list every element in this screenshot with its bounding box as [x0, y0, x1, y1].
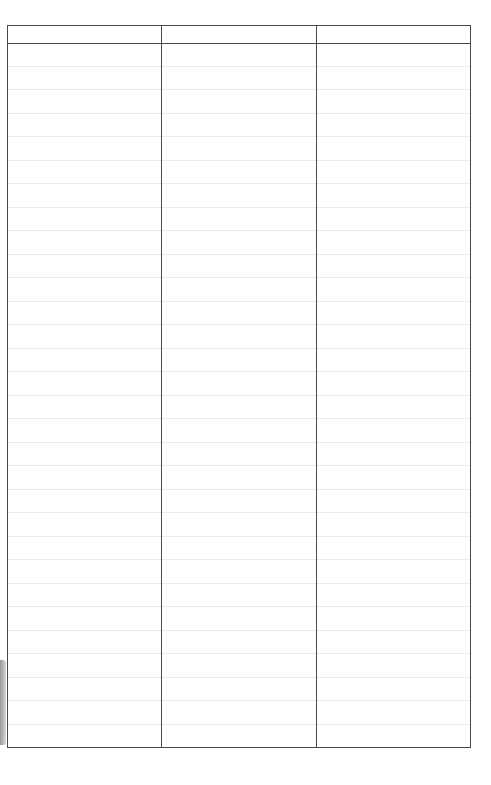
table-row — [8, 725, 470, 749]
table-row — [8, 114, 470, 138]
table-cell — [8, 396, 161, 419]
table-cell — [8, 43, 161, 66]
table-cell — [316, 631, 470, 654]
table-cell — [8, 114, 161, 137]
table-cell — [8, 184, 161, 207]
table-cell — [316, 584, 470, 607]
table-row — [8, 678, 470, 702]
table-cell — [161, 184, 315, 207]
table-row — [8, 231, 470, 255]
table-cell — [161, 466, 315, 489]
table-cell — [8, 419, 161, 442]
table-cell — [316, 325, 470, 348]
table-header — [8, 26, 470, 44]
table-row — [8, 372, 470, 396]
table-cell — [316, 231, 470, 254]
table-cell — [8, 137, 161, 160]
table-row — [8, 161, 470, 185]
table-cell — [8, 443, 161, 466]
table-cell — [8, 678, 161, 701]
table-cell — [8, 490, 161, 513]
table-cell — [161, 231, 315, 254]
table-cell — [8, 325, 161, 348]
table-row — [8, 137, 470, 161]
table-cell — [161, 490, 315, 513]
table-cell — [316, 419, 470, 442]
table-row — [8, 584, 470, 608]
table-cell — [8, 607, 161, 630]
table-cell — [161, 584, 315, 607]
table-cell — [161, 137, 315, 160]
table-cell — [161, 537, 315, 560]
table-cell — [8, 513, 161, 536]
table-row — [8, 90, 470, 114]
table-cell — [316, 443, 470, 466]
table-row — [8, 43, 470, 67]
table-cell — [316, 278, 470, 301]
table-cell — [316, 208, 470, 231]
table-cell — [161, 255, 315, 278]
table-cell — [161, 419, 315, 442]
table-cell — [161, 607, 315, 630]
table-row — [8, 537, 470, 561]
table-cell — [316, 560, 470, 583]
blank-table-form — [7, 25, 471, 748]
table-row — [8, 208, 470, 232]
table-cell — [316, 372, 470, 395]
table-row — [8, 349, 470, 373]
table-row — [8, 396, 470, 420]
table-cell — [316, 654, 470, 677]
table-cell — [161, 43, 315, 66]
table-cell — [161, 631, 315, 654]
table-body — [8, 43, 470, 747]
table-cell — [316, 137, 470, 160]
table-row — [8, 278, 470, 302]
table-cell — [161, 114, 315, 137]
page-edge-shadow — [0, 660, 6, 745]
table-cell — [8, 584, 161, 607]
header-cell-2 — [161, 26, 315, 43]
table-row — [8, 255, 470, 279]
table-cell — [161, 325, 315, 348]
table-cell — [316, 349, 470, 372]
table-row — [8, 443, 470, 467]
table-cell — [316, 184, 470, 207]
table-row — [8, 654, 470, 678]
table-cell — [8, 701, 161, 724]
table-cell — [316, 161, 470, 184]
table-cell — [161, 560, 315, 583]
table-cell — [161, 654, 315, 677]
table-cell — [8, 90, 161, 113]
table-cell — [8, 725, 161, 749]
table-cell — [8, 631, 161, 654]
table-row — [8, 701, 470, 725]
table-cell — [161, 90, 315, 113]
table-cell — [316, 490, 470, 513]
table-cell — [316, 67, 470, 90]
table-cell — [8, 466, 161, 489]
table-row — [8, 466, 470, 490]
table-row — [8, 325, 470, 349]
table-cell — [8, 231, 161, 254]
table-cell — [8, 349, 161, 372]
table-cell — [316, 607, 470, 630]
header-cell-1 — [8, 26, 161, 43]
table-cell — [316, 396, 470, 419]
table-cell — [316, 678, 470, 701]
column-divider — [161, 26, 162, 747]
table-cell — [8, 208, 161, 231]
table-row — [8, 607, 470, 631]
table-cell — [316, 43, 470, 66]
table-cell — [161, 513, 315, 536]
column-divider — [316, 26, 317, 747]
table-row — [8, 490, 470, 514]
table-cell — [316, 302, 470, 325]
table-row — [8, 560, 470, 584]
table-cell — [161, 725, 315, 749]
table-row — [8, 184, 470, 208]
table-cell — [316, 466, 470, 489]
table-cell — [8, 372, 161, 395]
table-cell — [161, 396, 315, 419]
table-row — [8, 419, 470, 443]
table-cell — [8, 302, 161, 325]
